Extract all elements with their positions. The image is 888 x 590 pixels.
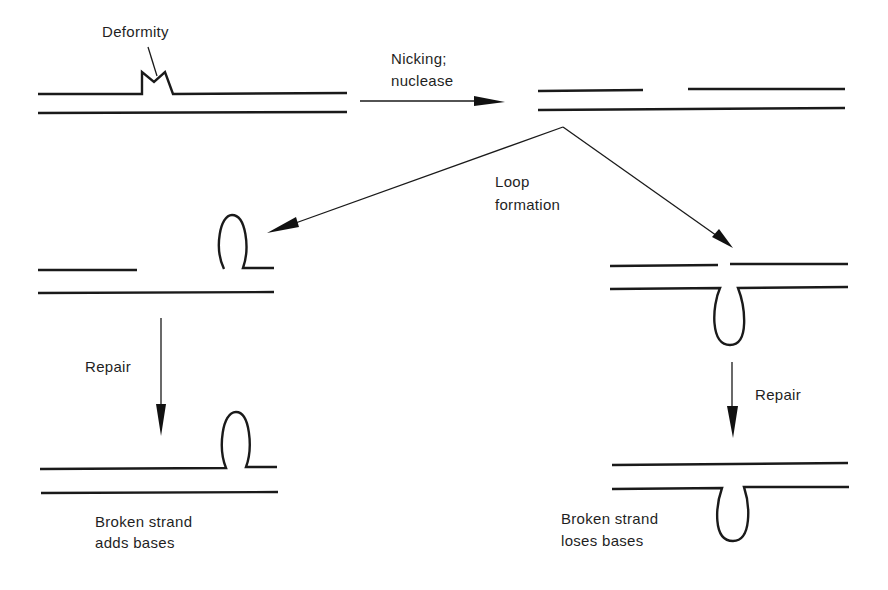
bottom-strand — [41, 492, 278, 493]
top-strand-left-fragment — [538, 90, 643, 91]
top-strand-with-deformity — [38, 72, 347, 94]
repaired-adds — [40, 412, 278, 493]
bottom-strand — [38, 292, 274, 293]
top-strand-with-loop — [40, 412, 277, 469]
deformity-label: Deformity — [102, 22, 169, 41]
bottom-strand-loop — [610, 287, 848, 345]
right-result-line2: loses bases — [561, 530, 658, 552]
nicking-label-line1: Nicking; — [391, 48, 453, 70]
loop-bottom — [610, 264, 848, 345]
repair-arrow-right — [727, 362, 738, 438]
left-result-label: Broken strand adds bases — [95, 511, 192, 553]
nicked-duplex — [538, 89, 845, 110]
repair-arrow-left — [156, 318, 166, 436]
repair-label-left: Repair — [85, 357, 131, 376]
right-result-label: Broken strand loses bases — [561, 508, 658, 552]
loop-label-line1: Loop — [495, 170, 560, 193]
left-result-line2: adds bases — [95, 532, 192, 553]
loop-label-line2: formation — [495, 193, 560, 216]
nicking-label-line2: nuclease — [391, 70, 453, 92]
top-strand-loop — [219, 215, 274, 269]
nicking-label: Nicking; nuclease — [391, 48, 453, 92]
right-result-line1: Broken strand — [561, 508, 658, 530]
top-strand-left-fragment — [610, 265, 718, 266]
deformity-pointer — [148, 47, 157, 76]
nicking-arrow — [360, 96, 505, 106]
top-strand — [612, 463, 848, 465]
repair-label-right: Repair — [755, 385, 801, 404]
deformed-duplex — [38, 47, 347, 113]
bottom-strand — [38, 112, 347, 113]
loop-formation-label: Loop formation — [495, 170, 560, 216]
loop-top — [38, 215, 274, 293]
left-result-line1: Broken strand — [95, 511, 192, 532]
bottom-strand — [538, 108, 845, 110]
